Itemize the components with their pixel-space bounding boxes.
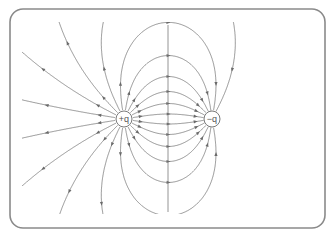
- negative-charge-label: −q: [207, 114, 217, 124]
- dipole-diagram: +q −q: [0, 0, 333, 230]
- positive-charge-label: +q: [119, 114, 129, 124]
- negative-charge: −q: [204, 111, 220, 127]
- field-diagram-canvas: +q −q: [0, 0, 333, 230]
- diagram-frame: [10, 9, 325, 228]
- positive-charge: +q: [116, 111, 132, 127]
